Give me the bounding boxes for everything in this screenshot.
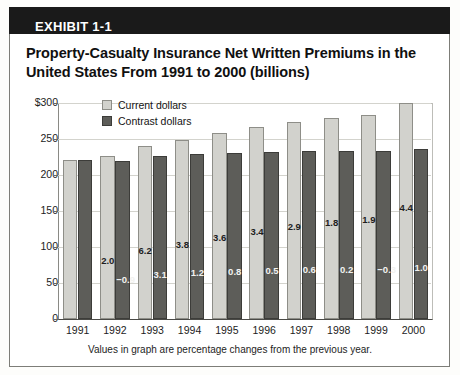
bar-current-dollars: 3.4	[249, 127, 264, 319]
bar-group: 1.9−0.3	[361, 103, 391, 319]
bar-value-label: 1.2	[191, 267, 204, 278]
bar-value-label: 0.2	[340, 264, 353, 275]
bar-contrast-dollars: −0.9	[115, 161, 130, 319]
page-title: Property-Casualty Insurance Net Written …	[26, 44, 426, 82]
exhibit-header-bar: EXHIBIT 1-1	[9, 7, 450, 34]
bar-value-label: 1.0	[415, 262, 428, 273]
bar-value-label: 1.8	[325, 217, 338, 228]
legend-label-contrast: Contrast dollars	[118, 115, 192, 127]
x-axis-tick-label: 1999	[357, 324, 394, 336]
bar-current-dollars: 3.6	[212, 133, 227, 319]
y-axis-tick-mark	[54, 319, 58, 320]
bar-current-dollars: 6.2	[138, 146, 153, 319]
bar-group	[63, 103, 93, 319]
bar-value-label: 3.8	[176, 239, 189, 250]
y-axis-tick-mark	[54, 211, 58, 212]
bar-contrast-dollars	[78, 160, 93, 319]
x-axis-tick-label: 1993	[134, 324, 171, 336]
bar-value-label: 3.6	[213, 232, 226, 243]
bar-value-label: 2.0	[101, 255, 114, 266]
bar-contrast-dollars: −0.3	[376, 151, 391, 319]
bar-contrast-dollars: 1.0	[414, 149, 429, 319]
exhibit-screenshot: EXHIBIT 1-1 Property-Casualty Insurance …	[0, 0, 460, 375]
bar-value-label: 0.6	[303, 264, 316, 275]
y-axis-tick-mark	[54, 283, 58, 284]
y-axis-tick-label: $300	[18, 96, 58, 108]
y-axis-tick-mark	[54, 175, 58, 176]
bar-current-dollars: 2.0	[100, 156, 115, 319]
bar-group: 4.41.0	[399, 103, 429, 319]
bar-contrast-dollars: 3.1	[153, 156, 168, 319]
bar-group: 2.0−0.9	[100, 103, 130, 319]
bar-value-label: 2.9	[288, 221, 301, 232]
y-axis-tick-label: 0	[18, 312, 58, 324]
bar-current-dollars: 2.9	[287, 122, 302, 319]
bar-group: 2.90.6	[287, 103, 317, 319]
chart-legend: Current dollars Contrast dollars	[102, 98, 192, 130]
bar-value-label: −0.9	[116, 274, 129, 285]
bar-value-label: 0.8	[228, 266, 241, 277]
exhibit-label: EXHIBIT 1-1	[35, 19, 112, 34]
x-axis: 1991199219931994199519961997199819992000	[59, 324, 432, 340]
bar-value-label: 3.1	[154, 269, 167, 280]
legend-swatch-icon-current	[102, 100, 112, 110]
bar-current-dollars: 1.9	[361, 115, 376, 319]
x-axis-tick-label: 1992	[96, 324, 133, 336]
x-axis-tick-label: 1998	[320, 324, 357, 336]
y-axis-tick-mark	[54, 247, 58, 248]
legend-item-current-dollars: Current dollars	[102, 98, 192, 112]
bar-value-label: 3.4	[250, 226, 263, 237]
bar-group: 3.81.2	[175, 103, 205, 319]
bar-group: 6.23.1	[138, 103, 168, 319]
y-axis-tick-mark	[54, 103, 58, 104]
bar-contrast-dollars: 0.8	[227, 153, 242, 319]
x-axis-tick-label: 1991	[59, 324, 96, 336]
x-axis-tick-label: 1994	[171, 324, 208, 336]
bar-value-label: 1.9	[362, 214, 375, 225]
bar-group: 3.40.5	[249, 103, 279, 319]
bar-value-label: 6.2	[139, 245, 152, 256]
legend-item-contrast-dollars: Contrast dollars	[102, 114, 192, 128]
x-axis-tick-label: 2000	[395, 324, 432, 336]
y-axis-tick-label: 200	[18, 168, 58, 180]
y-axis-tick-label: 100	[18, 240, 58, 252]
x-axis-tick-label: 1996	[246, 324, 283, 336]
bar-current-dollars: 1.8	[324, 118, 339, 319]
y-axis-tick-label: 250	[18, 132, 58, 144]
bar-group: 1.80.2	[324, 103, 354, 319]
bar-contrast-dollars: 0.2	[339, 151, 354, 319]
chart-footnote: Values in graph are percentage changes f…	[20, 344, 440, 355]
bar-current-dollars: 4.4	[399, 103, 414, 319]
bar-value-label: 0.5	[265, 265, 278, 276]
bar-contrast-dollars: 0.5	[264, 152, 279, 319]
bar-current-dollars: 3.8	[175, 140, 190, 319]
bar-current-dollars	[63, 160, 78, 319]
y-axis-tick-label: 50	[18, 276, 58, 288]
bar-chart: $300250200150100500 2.0−0.96.23.13.81.23…	[20, 96, 440, 331]
bar-layer: 2.0−0.96.23.13.81.23.60.83.40.52.90.61.8…	[59, 103, 432, 319]
y-axis-tick-mark	[54, 139, 58, 140]
bar-value-label: −0.3	[377, 264, 390, 275]
x-axis-tick-label: 1995	[208, 324, 245, 336]
bar-contrast-dollars: 1.2	[190, 154, 205, 319]
bar-value-label: 4.4	[400, 202, 413, 213]
bar-contrast-dollars: 0.6	[302, 151, 317, 319]
legend-swatch-icon-contrast	[102, 116, 112, 126]
y-axis-tick-label: 150	[18, 204, 58, 216]
bar-group: 3.60.8	[212, 103, 242, 319]
x-axis-tick-label: 1997	[283, 324, 320, 336]
legend-label-current: Current dollars	[118, 99, 187, 111]
